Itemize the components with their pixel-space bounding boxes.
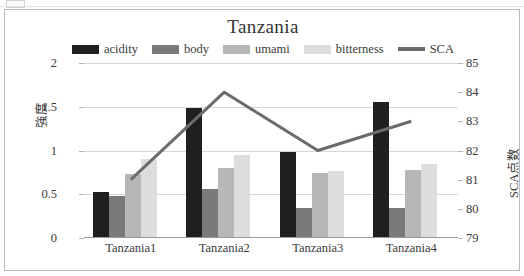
- legend-item-umami[interactable]: umami: [223, 43, 290, 56]
- legend-label: acidity: [104, 43, 138, 56]
- x-axis-labels: Tanzania1Tanzania2Tanzania3Tanzania4: [84, 241, 458, 263]
- y-axis-right-tick-mark: [458, 63, 463, 64]
- legend-label: umami: [255, 43, 290, 56]
- x-axis-tick-label: Tanzania4: [356, 241, 466, 256]
- y-axis-left-tick-label: 1: [21, 143, 57, 158]
- y-axis-left-tick-label: 1.5: [21, 99, 57, 114]
- y-axis-right-tick-label: 84: [466, 85, 500, 100]
- y-axis-right-title: SCA点数: [503, 148, 522, 198]
- y-axis-right-tick-label: 82: [466, 143, 500, 158]
- y-axis-right-tick-mark: [458, 92, 463, 93]
- y-axis-right-tick-mark: [458, 180, 463, 181]
- sca-line-series: [84, 63, 458, 238]
- chart-frame: Tanzania aciditybodyumamibitternessSCA 強…: [4, 9, 520, 271]
- y-axis-right-tick-mark: [458, 209, 463, 210]
- sca-line-path[interactable]: [131, 92, 412, 180]
- legend-swatch-bitterness: [304, 45, 331, 54]
- y-axis-right-tick-label: 83: [466, 114, 500, 129]
- y-axis-right-tick-label: 81: [466, 172, 500, 187]
- legend-item-sca[interactable]: SCA: [398, 43, 454, 56]
- legend-label: SCA: [430, 43, 454, 56]
- chart-page: Tanzania aciditybodyumamibitternessSCA 強…: [0, 0, 524, 276]
- chart-title: Tanzania: [5, 16, 521, 38]
- y-axis-right-tick-mark: [458, 238, 463, 239]
- scan-artifact-strip: [0, 0, 524, 8]
- legend-line-marker-sca: [398, 47, 425, 51]
- y-axis-right-tick-label: 85: [466, 56, 500, 71]
- y-axis-right-tick-label: 80: [466, 201, 500, 216]
- y-axis-left-tick-label: 2: [21, 56, 57, 71]
- y-axis-left-tick-label: 0.5: [21, 187, 57, 202]
- y-axis-left-tick-label: 0: [21, 231, 57, 246]
- scan-rule-line: [0, 6, 524, 7]
- legend-item-acidity[interactable]: acidity: [72, 43, 138, 56]
- y-axis-tick-mark: [79, 238, 84, 239]
- chart-legend: aciditybodyumamibitternessSCA: [5, 41, 521, 57]
- y-axis-right-tick-mark: [458, 151, 463, 152]
- legend-item-body[interactable]: body: [152, 43, 209, 56]
- y-axis-right-tick-label: 79: [466, 231, 500, 246]
- legend-item-bitterness[interactable]: bitterness: [304, 43, 384, 56]
- legend-label: body: [184, 43, 209, 56]
- legend-swatch-umami: [223, 45, 250, 54]
- y-axis-right-tick-mark: [458, 121, 463, 122]
- legend-swatch-acidity: [72, 45, 99, 54]
- legend-swatch-body: [152, 45, 179, 54]
- legend-label: bitterness: [336, 43, 384, 56]
